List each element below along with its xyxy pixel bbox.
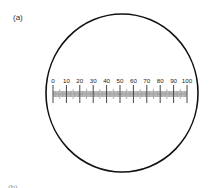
tick-label: 60 [130, 77, 137, 84]
ocular-micrometer-scale: 0102030405060708090100 [51, 77, 192, 103]
tick-labels: 0102030405060708090100 [51, 77, 192, 84]
tick-label: 90 [170, 77, 177, 84]
tick-label: 70 [143, 77, 150, 84]
tick-label: 100 [182, 77, 193, 84]
tick-label: 80 [157, 77, 164, 84]
tick-label: 50 [117, 77, 124, 84]
eyepiece-reticle-diagram: 0102030405060708090100 [0, 0, 210, 188]
tick-label: 10 [63, 77, 70, 84]
tick-label: 40 [103, 77, 110, 84]
tick-label: 0 [51, 77, 55, 84]
tick-label: 30 [90, 77, 97, 84]
tick-label: 20 [76, 77, 83, 84]
